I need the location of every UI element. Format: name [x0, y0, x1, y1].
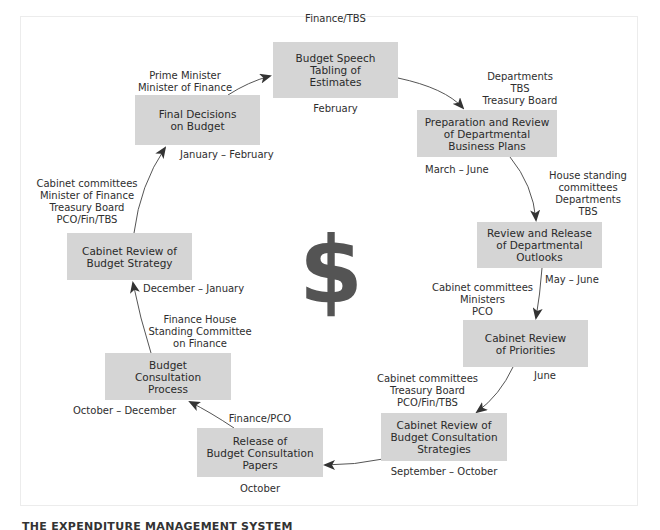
timing-review-release: May – June	[545, 274, 615, 286]
stage-cabinet-review-budget-strategy: Cabinet Review of Budget Strategy	[67, 233, 192, 280]
stage-review-release: Review and Release of Departmental Outlo…	[477, 222, 602, 268]
timing-budget-speech: February	[273, 103, 398, 115]
stage-budget-speech: Budget Speech Tabling of Estimates	[273, 42, 398, 98]
timing-release-papers: October	[220, 483, 300, 495]
arrow-prep-to-release	[510, 157, 536, 220]
timing-budget-consultation-process: October – December	[73, 405, 183, 417]
stage-final-decisions: Final Decisions on Budget	[135, 95, 260, 145]
actors-review-release: House standing committees Departments TB…	[538, 170, 638, 218]
actors-preparation-review: Departments TBS Treasury Board	[460, 71, 580, 107]
actors-budget-consultation-process: Finance House Standing Committee on Fina…	[140, 314, 260, 350]
timing-preparation-review: March – June	[425, 164, 505, 176]
actors-final-decisions: Prime Minister Minister of Finance	[135, 70, 235, 94]
stage-release-papers: Release of Budget Consultation Papers	[197, 428, 323, 477]
figure-caption: THE EXPENDITURE MANAGEMENT SYSTEM	[22, 520, 293, 530]
actors-budget-speech: Finance/TBS	[273, 13, 398, 25]
stage-budget-consultation-process: Budget Consultation Process	[105, 353, 231, 400]
actors-cabinet-review-priorities: Cabinet committees Ministers PCO	[425, 282, 540, 318]
timing-final-decisions: January – February	[180, 149, 285, 161]
stage-consultation-strategies: Cabinet Review of Budget Consultation St…	[381, 413, 507, 461]
timing-consultation-strategies: September – October	[381, 466, 507, 478]
stage-cabinet-review-priorities: Cabinet Review of Priorities	[463, 320, 588, 367]
actors-release-papers: Finance/PCO	[220, 413, 300, 425]
stage-preparation-review: Preparation and Review of Departmental B…	[417, 110, 557, 157]
arrow-strategies-to-papers	[325, 459, 383, 465]
actors-consultation-strategies: Cabinet committees Treasury Board PCO/Fi…	[370, 373, 485, 409]
timing-cabinet-review-priorities: June	[520, 370, 570, 382]
dollar-icon: $	[296, 222, 366, 322]
timing-cabinet-review-budget-strategy: December – January	[143, 283, 253, 295]
arrow-speech-to-prep	[398, 78, 463, 108]
actors-cabinet-review-budget-strategy: Cabinet committees Minister of Finance T…	[32, 178, 142, 226]
